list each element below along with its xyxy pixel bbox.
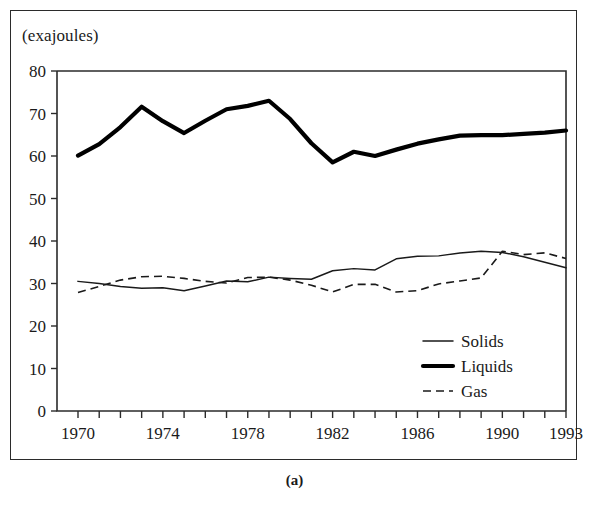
y-tick-label: 80 (29, 62, 46, 81)
x-tick-label: 1970 (61, 424, 95, 443)
figure-root: (exajoules) 01020304050607080 1970197419… (0, 0, 589, 509)
x-axis-tick-labels: 1970197419781982198619901993 (61, 424, 583, 443)
chart-series-lines (78, 101, 566, 293)
y-tick-label: 60 (29, 147, 46, 166)
y-tick-label: 30 (29, 275, 46, 294)
y-tick-label: 0 (38, 402, 47, 421)
legend-label-liquids: Liquids (461, 357, 513, 376)
series-line-solids (78, 251, 566, 291)
x-tick-label: 1993 (549, 424, 583, 443)
x-tick-label: 1974 (146, 424, 181, 443)
y-tick-label: 70 (29, 105, 46, 124)
y-tick-label: 50 (29, 190, 46, 209)
legend-label-gas: Gas (461, 382, 487, 401)
y-tick-label: 40 (29, 232, 46, 251)
chart-legend: SolidsLiquidsGas (423, 332, 513, 401)
series-line-liquids (78, 101, 566, 163)
figure-caption: (a) (0, 472, 589, 489)
y-tick-label: 20 (29, 317, 46, 336)
x-tick-label: 1990 (485, 424, 519, 443)
x-tick-label: 1978 (231, 424, 265, 443)
series-line-gas (78, 251, 566, 292)
x-tick-label: 1982 (316, 424, 350, 443)
legend-label-solids: Solids (461, 332, 504, 351)
y-tick-label: 10 (29, 360, 46, 379)
x-tick-label: 1986 (400, 424, 434, 443)
chart-plot: 01020304050607080 1970197419781982198619… (0, 0, 589, 509)
y-axis-tick-labels: 01020304050607080 (29, 62, 46, 421)
